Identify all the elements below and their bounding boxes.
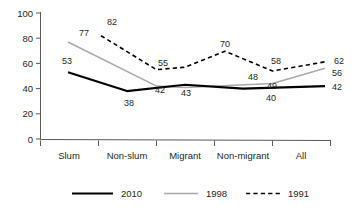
data-label-1998-non-migrant: 48 xyxy=(248,72,258,82)
series-line-1991 xyxy=(101,36,325,71)
data-label-1991-non-slum: 55 xyxy=(158,58,168,68)
x-axis-line xyxy=(41,140,332,141)
x-tick-label-all: All xyxy=(296,150,307,161)
data-point-labels: 53 77 82 38 42 55 43 70 48 49 40 58 62 5… xyxy=(62,17,344,108)
y-tick-label: 40 xyxy=(22,83,33,94)
data-label-2010-non-slum: 38 xyxy=(124,98,134,108)
data-label-1998-slum: 77 xyxy=(79,28,89,38)
data-label-1991-all: 62 xyxy=(334,56,344,66)
data-label-2010-slum: 53 xyxy=(62,56,72,66)
data-label-2010-migrant: 43 xyxy=(181,88,191,98)
x-tick-label-non-slum: Non-slum xyxy=(107,150,148,161)
x-tick-label-migrant: Migrant xyxy=(169,150,201,161)
data-label-2010-all: 42 xyxy=(332,82,342,92)
data-label-1998-all: 56 xyxy=(332,68,342,78)
series-line-1998 xyxy=(68,42,325,87)
legend-label-1998: 1998 xyxy=(206,188,227,199)
y-tick-label: 20 xyxy=(22,108,33,119)
legend-label-2010: 2010 xyxy=(121,188,142,199)
y-tick-label: 60 xyxy=(22,58,33,69)
data-label-1998-non-migrant-b: 49 xyxy=(267,81,277,91)
x-axis-category-labels: Slum Non-slum Migrant Non-migrant All xyxy=(58,150,306,161)
data-label-1998-non-slum: 42 xyxy=(155,85,165,95)
data-label-1991-non-migrant: 58 xyxy=(271,56,281,66)
series-line-2010 xyxy=(68,72,325,91)
data-label-1991-slum: 82 xyxy=(107,17,117,27)
x-tick-label-non-migrant: Non-migrant xyxy=(217,150,270,161)
x-axis-ticks xyxy=(41,141,331,147)
data-label-1991-migrant-peak: 70 xyxy=(220,39,230,49)
data-label-2010-non-migrant: 40 xyxy=(266,93,276,103)
y-tick-label: 100 xyxy=(17,8,33,19)
chart-legend: 2010 1998 1991 xyxy=(72,188,309,199)
legend-label-1991: 1991 xyxy=(288,188,309,199)
y-tick-label: 80 xyxy=(22,33,33,44)
y-axis-ticks xyxy=(36,13,41,139)
y-axis-tick-labels: 100 80 60 40 20 0 xyxy=(17,8,33,145)
x-tick-label-slum: Slum xyxy=(58,150,80,161)
chart-page: 100 80 60 40 20 0 Slum Non-slum Migran xyxy=(0,0,354,213)
line-chart: 100 80 60 40 20 0 Slum Non-slum Migran xyxy=(0,0,354,213)
y-tick-label: 0 xyxy=(28,134,33,145)
